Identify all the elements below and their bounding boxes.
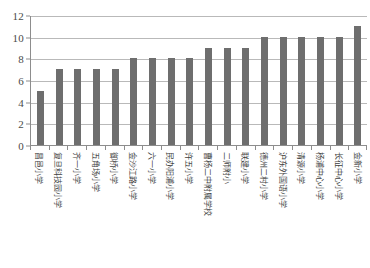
bar-slot: [106, 16, 125, 145]
y-tick-label: 6: [18, 76, 24, 87]
x-axis-category-label: 金新小学: [353, 152, 362, 184]
x-axis-category-label: 德州二村小学: [259, 152, 268, 200]
bar: [242, 48, 249, 146]
bar-slot: [180, 16, 199, 145]
x-tick-cell: [49, 146, 68, 151]
x-tick-cell: [198, 146, 217, 151]
bar-chart: 024681012 昌邑小学复旦科技园小学齐一小学五角场小学御桥小学金沙江路小学…: [0, 0, 370, 268]
bar: [93, 69, 100, 145]
x-label-cell: 长征中心小学: [330, 152, 349, 264]
x-tick-mark: [161, 146, 162, 150]
x-tick-cell: [161, 146, 180, 151]
bar-slot: [218, 16, 237, 145]
x-axis-category-label: 六一小学: [147, 152, 156, 184]
x-tick-mark: [217, 146, 218, 150]
x-label-cell: 二师附小: [217, 152, 236, 264]
x-axis-category-label: 民办阳浦小学: [165, 152, 174, 200]
bar: [149, 58, 156, 145]
x-tick-mark-end: [366, 146, 367, 150]
x-tick-cell: [105, 146, 124, 151]
x-axis-category-label: 许五小学: [184, 152, 193, 184]
x-tick-mark: [255, 146, 256, 150]
x-tick-cell: [255, 146, 274, 151]
bar: [205, 48, 212, 146]
x-tick-mark: [236, 146, 237, 150]
x-label-cell: 金沙江路小学: [124, 152, 143, 264]
x-tick-mark: [180, 146, 181, 150]
bar: [317, 37, 324, 145]
x-tick-cell: [142, 146, 161, 151]
plot-area: [30, 16, 367, 146]
bar: [186, 58, 193, 145]
x-tick-mark: [86, 146, 87, 150]
x-tick-cell: [236, 146, 255, 151]
x-label-cell: 齐一小学: [67, 152, 86, 264]
x-label-cell: 联建小学: [236, 152, 255, 264]
x-tick-cell: [124, 146, 143, 151]
x-tick-mark: [330, 146, 331, 150]
plot-area-wrapper: [30, 16, 367, 146]
bar: [74, 69, 81, 145]
x-axis-category-label: 昌邑小学: [34, 152, 43, 184]
y-tick-label: 10: [13, 32, 24, 43]
x-axis-category-label: 杨浦中心小学: [315, 152, 324, 200]
bars-layer: [31, 16, 367, 145]
x-tick-cell: [348, 146, 367, 151]
bar-slot: [255, 16, 274, 145]
x-label-cell: 杨浦中心小学: [311, 152, 330, 264]
x-tick-mark: [198, 146, 199, 150]
x-axis-category-label: 齐一小学: [72, 152, 81, 184]
bar-slot: [292, 16, 311, 145]
bar-slot: [162, 16, 181, 145]
y-tick-label: 0: [18, 141, 24, 152]
y-tick-label: 2: [18, 119, 24, 130]
x-tick-mark: [348, 146, 349, 150]
x-axis-category-label: 复旦科技园小学: [53, 152, 62, 208]
x-tick-cell: [273, 146, 292, 151]
bar: [280, 37, 287, 145]
x-label-cell: 清源小学: [292, 152, 311, 264]
bar-slot: [68, 16, 87, 145]
x-label-cell: 沪东外国语小学: [273, 152, 292, 264]
bar-slot: [50, 16, 69, 145]
x-tick-cell: [217, 146, 236, 151]
bar-slot: [330, 16, 349, 145]
x-tick-mark: [30, 146, 31, 150]
x-tick-cell: [67, 146, 86, 151]
x-axis-category-label: 曹杨二中附属学校: [203, 152, 212, 216]
x-tick-mark: [105, 146, 106, 150]
bar-slot: [31, 16, 50, 145]
bar: [336, 37, 343, 145]
x-tick-mark: [124, 146, 125, 150]
x-tick-mark: [142, 146, 143, 150]
x-axis-category-label: 沪东外国语小学: [278, 152, 287, 208]
x-label-cell: 六一小学: [142, 152, 161, 264]
y-tick-label: 4: [18, 97, 24, 108]
bar-slot: [274, 16, 293, 145]
bar: [56, 69, 63, 145]
x-tick-cell: [30, 146, 49, 151]
y-axis: 024681012: [0, 16, 30, 146]
x-tick-cell: [292, 146, 311, 151]
x-axis-category-label: 御桥小学: [109, 152, 118, 184]
bar: [354, 26, 361, 145]
x-axis-category-label: 五角场小学: [91, 152, 100, 192]
x-label-cell: 许五小学: [180, 152, 199, 264]
x-tick-cell: [330, 146, 349, 151]
bar: [112, 69, 119, 145]
x-tick-mark: [311, 146, 312, 150]
x-label-cell: 曹杨二中附属学校: [198, 152, 217, 264]
bar-slot: [124, 16, 143, 145]
x-axis-category-label: 二师附小: [222, 152, 231, 184]
x-tick-cell: [311, 146, 330, 151]
x-label-cell: 御桥小学: [105, 152, 124, 264]
x-axis-category-label: 联建小学: [240, 152, 249, 184]
bar-slot: [199, 16, 218, 145]
x-label-cell: 德州二村小学: [255, 152, 274, 264]
x-tick-cell: [86, 146, 105, 151]
x-tick-cell: [180, 146, 199, 151]
bar: [298, 37, 305, 145]
x-axis-category-label: 长征中心小学: [334, 152, 343, 200]
bar-slot: [236, 16, 255, 145]
bar: [224, 48, 231, 146]
